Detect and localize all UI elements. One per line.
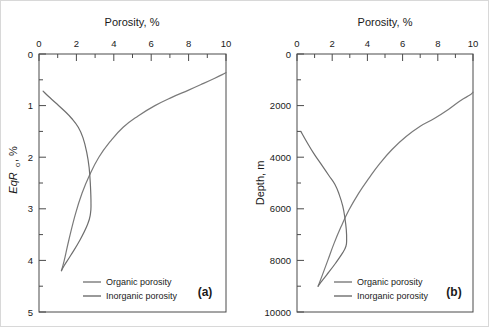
panel-b-x-tick-label-3: 6 — [400, 38, 405, 49]
panel-a-y-axis-title: EqR o , % — [7, 146, 22, 194]
panel-a-x-tick-label-0: 0 — [36, 38, 41, 49]
panel-b-curves — [301, 92, 473, 286]
panel-a-x-tick-label-1: 2 — [74, 38, 79, 49]
panel-a-x-tick-label-2: 4 — [111, 38, 116, 49]
panel-b-svg: Porosity, % Depth, m 0 2 4 6 — [246, 1, 489, 327]
panel-a-x-minor-ticks — [58, 54, 208, 58]
panel-a-curve-inorganic-porosity — [43, 91, 91, 271]
chart-panel-a: Porosity, % EqR o , % — [1, 1, 246, 327]
panel-b-y-tick-label-1: 2000 — [270, 100, 291, 111]
panel-b-x-tick-label-2: 4 — [365, 38, 370, 49]
panel-a-y-tick-label-4: 4 — [28, 255, 33, 266]
panel-a-x-axis-title: Porosity, % — [105, 16, 160, 28]
panel-a-y-tick-label-1: 1 — [28, 100, 33, 111]
panel-b-y-axis-title: Depth, m — [254, 161, 266, 206]
figure-container: Porosity, % EqR o , % — [0, 0, 489, 327]
panel-b-x-axis-title: Porosity, % — [358, 16, 413, 28]
panel-a-y-tick-label-2: 2 — [28, 152, 33, 163]
panel-a-plot-frame — [39, 54, 226, 312]
panel-b-curve-organic-porosity — [318, 92, 473, 286]
chart-panel-b: Porosity, % Depth, m 0 2 4 6 — [246, 1, 489, 327]
panel-b-x-tick-label-4: 8 — [435, 38, 440, 49]
panel-a-y-minor-ticks — [39, 80, 43, 286]
panel-b-legend-label-organic: Organic porosity — [357, 277, 423, 287]
panel-a-y-axis-title-subscript: o — [13, 163, 22, 167]
panel-a-y-axis-title-tail: , % — [7, 146, 19, 162]
panel-b-legend: Organic porosity Inorganic porosity — [334, 277, 429, 301]
panel-b-y-minor-ticks — [297, 80, 301, 286]
panel-b-curve-inorganic-porosity — [301, 131, 347, 286]
panel-a-curves — [43, 73, 226, 271]
panel-a-label: (a) — [198, 285, 213, 299]
panel-a-x-tick-label-5: 10 — [221, 38, 232, 49]
panel-b-y-tick-label-5: 10000 — [265, 307, 291, 318]
panel-b-label: (b) — [446, 285, 461, 299]
panel-b-y-tick-label-2: 4000 — [270, 152, 291, 163]
panel-a-legend-label-organic: Organic porosity — [106, 277, 172, 287]
panel-a-curve-organic-porosity — [61, 73, 226, 271]
panel-a-y-axis-title-main: EqR — [7, 172, 19, 193]
panel-b-legend-label-inorganic: Inorganic porosity — [357, 291, 429, 301]
panel-a-x-tick-label-4: 8 — [186, 38, 191, 49]
panel-b-x-tick-label-0: 0 — [294, 38, 299, 49]
panel-a-legend-label-inorganic: Inorganic porosity — [106, 291, 178, 301]
panel-a-y-tick-label-5: 5 — [28, 307, 33, 318]
panel-b-y-tick-label-3: 6000 — [270, 203, 291, 214]
panel-b-x-minor-ticks — [315, 54, 456, 58]
panel-a-legend: Organic porosity Inorganic porosity — [83, 277, 178, 301]
panel-b-y-tick-label-4: 8000 — [270, 255, 291, 266]
panel-b-x-tick-label-5: 10 — [468, 38, 479, 49]
panel-b-y-tick-label-0: 0 — [286, 49, 291, 60]
panel-b-x-tick-label-1: 2 — [330, 38, 335, 49]
panel-a-y-tick-label-3: 3 — [28, 203, 33, 214]
panel-a-x-tick-label-3: 6 — [149, 38, 154, 49]
panel-a-y-tick-label-0: 0 — [28, 49, 33, 60]
panel-a-svg: Porosity, % EqR o , % — [1, 1, 246, 327]
